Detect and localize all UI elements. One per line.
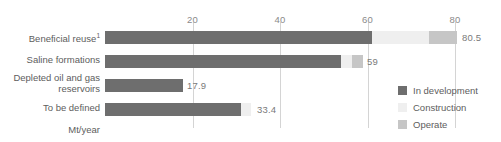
bar-segment-construction[interactable] (372, 31, 429, 44)
legend-label: Construction (413, 102, 466, 113)
bar-value-label: 80.5 (462, 32, 481, 43)
bar-value-label: 59 (367, 56, 378, 67)
bar-value-label: 33.4 (257, 104, 276, 115)
axis-unit-label: Mt/year (0, 125, 100, 136)
bar-segment-in-development[interactable] (105, 55, 341, 68)
category-label-depleted-oil-and-gas-reservoirs: Depleted oil and gas reservoirs (0, 73, 100, 94)
bar-segment-operate[interactable] (429, 31, 457, 44)
category-label-beneficial-reuse: Beneficial reuse1 (0, 31, 100, 45)
legend-swatch-icon (398, 120, 407, 129)
footnote-marker: 1 (96, 32, 100, 39)
category-label-to-be-defined: To be defined (0, 103, 100, 114)
bar-value-label: 17.9 (187, 80, 206, 91)
legend-label: Operate (413, 119, 447, 130)
bar-segment-in-development[interactable] (105, 103, 241, 116)
bar-segment-in-development[interactable] (105, 31, 372, 44)
tick-label-40: 40 (275, 14, 286, 25)
bar-segment-construction[interactable] (341, 55, 352, 68)
bar-segment-construction[interactable] (241, 103, 252, 116)
tick-label-20: 20 (187, 14, 198, 25)
bar-segment-operate[interactable] (352, 55, 363, 68)
category-label-text: Beneficial reuse (29, 33, 97, 44)
legend-swatch-icon (398, 86, 407, 95)
legend-swatch-icon (398, 103, 407, 112)
tick-label-80: 80 (450, 14, 461, 25)
tick-label-60: 60 (362, 14, 373, 25)
bar-segment-in-development[interactable] (105, 79, 183, 92)
stacked-bar-chart: Beneficial reuse1 Saline formations Depl… (0, 0, 501, 142)
legend-label: In development (413, 85, 478, 96)
category-label-saline-formations: Saline formations (0, 55, 100, 66)
